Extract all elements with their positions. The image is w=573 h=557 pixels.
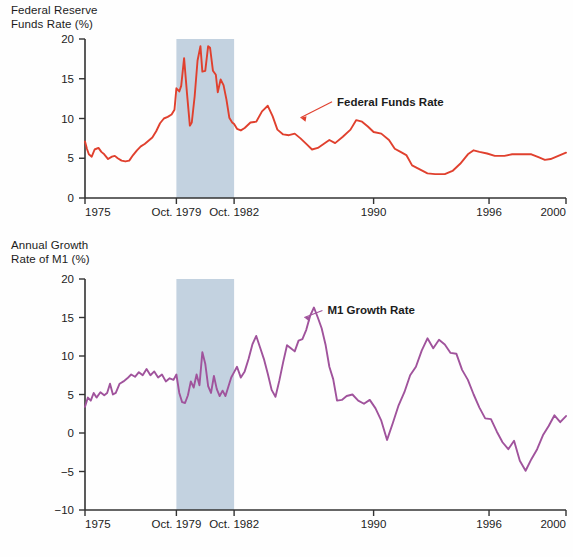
x-axis-tick-label: Oct. 1982: [209, 518, 259, 530]
x-axis-tick-label: Oct. 1979: [151, 518, 201, 530]
y-axis-tick-label: 0: [68, 427, 74, 439]
y-axis-tick-label: 20: [61, 273, 74, 285]
chart-fed-funds-rate: 051015201975Oct. 1979Oct. 19821990199620…: [0, 0, 573, 235]
data-series-line: [85, 46, 566, 174]
x-axis-tick-label: 1996: [476, 206, 502, 218]
y-axis-tick-label: −5: [61, 466, 74, 478]
y-axis-tick-label: 5: [68, 152, 74, 164]
figure-container: Federal Reserve Funds Rate (%) 051015201…: [0, 0, 573, 557]
annotation-arrow-line: [304, 310, 322, 317]
y-axis-tick-label: 15: [61, 73, 74, 85]
y-axis-tick-label: 10: [61, 350, 74, 362]
x-axis-tick-label: 1975: [85, 518, 111, 530]
y-axis-tick-label: 10: [61, 113, 74, 125]
data-series-line: [85, 307, 566, 470]
x-axis-tick-label: 2000: [540, 518, 566, 530]
x-axis-tick-label: 1990: [361, 206, 387, 218]
y-axis-tick-label: 5: [68, 389, 74, 401]
x-axis-tick-label: Oct. 1979: [151, 206, 201, 218]
y-axis-tick-label: −10: [54, 504, 74, 516]
x-axis-tick-label: 1996: [476, 518, 502, 530]
annotation-arrow-line: [300, 102, 332, 118]
series-annotation-label: M1 Growth Rate: [327, 304, 415, 316]
chart-m1-growth-rate: −10−5051015201975Oct. 1979Oct. 198219901…: [0, 235, 573, 557]
x-axis-tick-label: Oct. 1982: [209, 206, 259, 218]
y-axis-tick-label: 0: [68, 192, 74, 204]
x-axis-tick-label: 2000: [540, 206, 566, 218]
x-axis-tick-label: 1990: [361, 518, 387, 530]
y-axis-tick-label: 20: [61, 33, 74, 45]
x-axis-tick-label: 1975: [85, 206, 111, 218]
series-annotation-label: Federal Funds Rate: [337, 96, 444, 108]
y-axis-tick-label: 15: [61, 312, 74, 324]
